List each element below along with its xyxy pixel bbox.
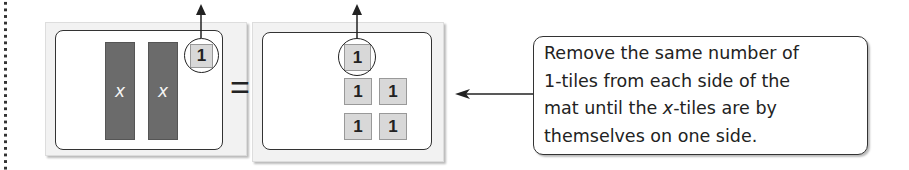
callout-line-3: mat until the x-tiles are by	[544, 95, 857, 123]
callout-line-4: themselves on one side.	[544, 123, 857, 151]
left-arrow-icon	[455, 89, 533, 99]
callout-text: mat until the	[544, 98, 663, 118]
up-arrow-icon	[196, 4, 206, 38]
up-arrow-icon	[352, 4, 362, 38]
callout-line-1: Remove the same number of	[544, 40, 857, 68]
callout-text: -tiles are by	[673, 98, 777, 118]
variable-x: x	[663, 98, 673, 118]
callout-line-2: 1-tiles from each side of the	[544, 68, 857, 96]
instruction-callout: Remove the same number of 1-tiles from e…	[533, 36, 868, 155]
